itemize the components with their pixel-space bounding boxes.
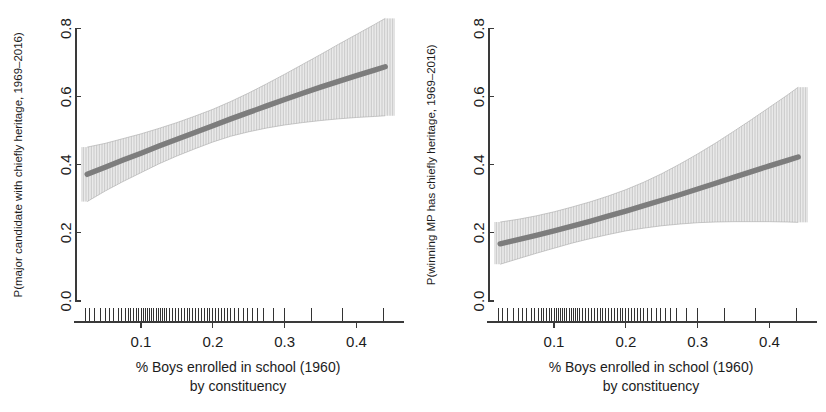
right-y-tick-label: 0.6 bbox=[470, 86, 487, 107]
right-fitted-line bbox=[500, 157, 798, 244]
right-x-tick-label: 0.3 bbox=[687, 333, 708, 350]
left-fitted-line bbox=[87, 67, 385, 175]
left-x-tick-label: 0.4 bbox=[346, 333, 367, 350]
left-y-tick-label: 0.2 bbox=[57, 222, 74, 243]
left-panel-plot: 0.00.20.40.60.80.10.20.30.4P(major candi… bbox=[0, 0, 413, 412]
left-x-axis-title-line2: by constituency bbox=[190, 378, 287, 394]
right-y-tick-label: 0.0 bbox=[470, 291, 487, 312]
right-rug-group bbox=[498, 308, 796, 321]
right-y-tick-label: 0.8 bbox=[470, 18, 487, 39]
left-rug-group bbox=[85, 308, 383, 321]
left-text-group: 0.00.20.40.60.80.10.20.30.4P(major candi… bbox=[12, 18, 367, 394]
right-y-tick-label: 0.2 bbox=[470, 222, 487, 243]
right-x-tick-label: 0.1 bbox=[544, 333, 565, 350]
left-y-tick-label: 0.0 bbox=[57, 291, 74, 312]
left-x-axis-title-line1: % Boys enrolled in school (1960) bbox=[136, 359, 341, 375]
right-line-group bbox=[500, 157, 798, 244]
right-y-axis-title: P(winning MP has chiefly heritage, 1969–… bbox=[425, 44, 437, 285]
left-x-tick-label: 0.3 bbox=[274, 333, 295, 350]
right-ci-lower-edge bbox=[500, 222, 798, 265]
left-x-tick-label: 0.2 bbox=[202, 333, 223, 350]
left-x-tick-label: 0.1 bbox=[131, 333, 152, 350]
right-x-tick-label: 0.4 bbox=[759, 333, 780, 350]
major-candidate-panel: 0.00.20.40.60.80.10.20.30.4P(major candi… bbox=[0, 0, 413, 412]
right-x-tick-label: 0.2 bbox=[615, 333, 636, 350]
left-y-tick-label: 0.6 bbox=[57, 86, 74, 107]
two-panel-figure: 0.00.20.40.60.80.10.20.30.4P(major candi… bbox=[0, 0, 826, 412]
right-band-group bbox=[495, 87, 807, 264]
left-y-axis-title: P(major candidate with chiefly heritage,… bbox=[12, 32, 24, 297]
winning-mp-panel: 0.00.20.40.60.80.10.20.30.4P(winning MP … bbox=[413, 0, 826, 412]
left-y-tick-label: 0.4 bbox=[57, 154, 74, 175]
left-y-tick-label: 0.8 bbox=[57, 18, 74, 39]
left-line-group bbox=[87, 67, 385, 175]
right-y-tick-label: 0.4 bbox=[470, 154, 487, 175]
right-x-axis-title-line1: % Boys enrolled in school (1960) bbox=[549, 359, 754, 375]
right-x-axis-title-line2: by constituency bbox=[603, 378, 700, 394]
right-panel-plot: 0.00.20.40.60.80.10.20.30.4P(winning MP … bbox=[413, 0, 826, 412]
left-band-group bbox=[82, 18, 394, 201]
